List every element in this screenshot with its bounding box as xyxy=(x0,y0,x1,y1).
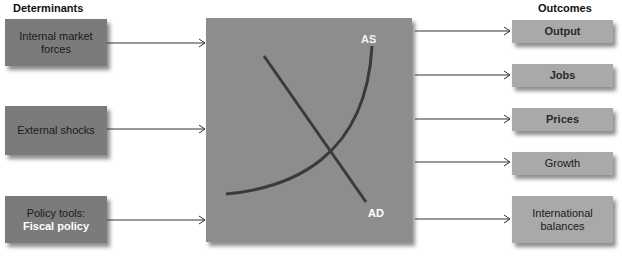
arrow-policy-to-center xyxy=(107,216,205,224)
arrow-center-to-output xyxy=(415,27,510,35)
arrow-internal-to-center xyxy=(107,39,205,47)
arrow-center-to-growth xyxy=(415,158,510,166)
arrow-center-to-jobs xyxy=(415,71,510,79)
arrow-center-to-prices xyxy=(415,115,510,123)
arrow-external-to-center xyxy=(107,125,205,133)
connector-arrows xyxy=(0,0,622,257)
arrow-center-to-international xyxy=(415,215,510,223)
